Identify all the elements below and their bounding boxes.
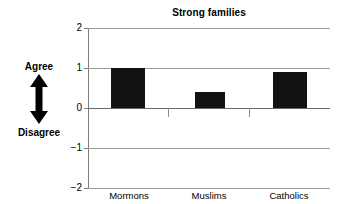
y-tick-label-0: 0: [62, 103, 82, 113]
gridline-zero: [88, 108, 330, 109]
x-label-catholics: Catholics: [248, 190, 330, 202]
category-tick-1: [168, 108, 169, 117]
category-tick-2: [249, 108, 250, 117]
double-headed-arrow-icon: [27, 74, 51, 124]
x-label-mormons: Mormons: [88, 190, 170, 202]
chart-title: Strong families: [88, 7, 330, 18]
y-tick-label-neg1: −1: [62, 143, 82, 153]
bar-muslims: [195, 92, 225, 108]
y-tick-label-1: 1: [62, 63, 82, 73]
plot-area: [88, 28, 330, 188]
gridline-neg1: [88, 148, 330, 149]
gridline-2: [88, 28, 330, 29]
gridline-neg2: [88, 188, 330, 189]
bar-catholics: [273, 72, 307, 108]
bar-mormons: [111, 68, 145, 108]
y-tick-label-neg2: −2: [62, 183, 82, 193]
y-tick-label-2: 2: [62, 23, 82, 33]
chart-container: Strong families Agree Disagree 2 1 0 −1 …: [0, 0, 342, 204]
y-axis-tick-labels: 2 1 0 −1 −2: [58, 0, 82, 204]
x-label-muslims: Muslims: [170, 190, 248, 202]
